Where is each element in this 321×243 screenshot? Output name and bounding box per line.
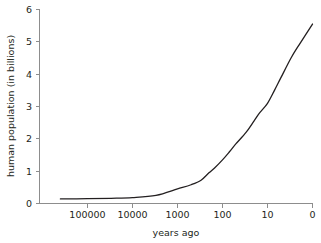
population-growth-chart: 6 5 4 3 2 1 0 100000 10000 1000 100 10 0 — [0, 0, 321, 243]
chart-canvas: 6 5 4 3 2 1 0 100000 10000 1000 100 10 0 — [0, 0, 321, 243]
x-axis-title: years ago — [153, 227, 200, 238]
x-axis-ticks — [88, 204, 313, 209]
y-tick-label-1: 1 — [26, 166, 32, 177]
y-tick-label-3: 3 — [26, 101, 32, 112]
y-axis-ticks — [36, 10, 40, 204]
y-axis-title: human population (in billions) — [5, 35, 16, 177]
x-tick-label-100000: 100000 — [69, 209, 105, 220]
y-tick-label-4: 4 — [26, 69, 32, 80]
x-tick-label-10000: 10000 — [117, 209, 147, 220]
y-tick-label-6: 6 — [26, 4, 32, 15]
y-axis-tick-labels: 6 5 4 3 2 1 0 — [26, 4, 32, 209]
y-tick-label-0: 0 — [26, 198, 32, 209]
population-curve — [60, 24, 312, 199]
x-tick-label-100: 100 — [213, 209, 231, 220]
y-tick-label-5: 5 — [26, 36, 32, 47]
x-tick-label-1000: 1000 — [165, 209, 189, 220]
x-tick-label-0: 0 — [309, 209, 315, 220]
y-tick-label-2: 2 — [26, 133, 32, 144]
x-tick-label-10: 10 — [261, 209, 273, 220]
x-axis-tick-labels: 100000 10000 1000 100 10 0 — [69, 209, 315, 220]
axis-lines — [40, 10, 313, 204]
